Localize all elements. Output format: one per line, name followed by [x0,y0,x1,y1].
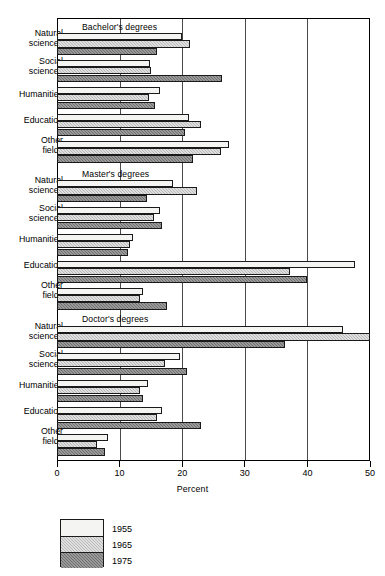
bar-doctorsdegrees-other-fields-1955 [57,434,108,441]
bar-bachelorsdegrees-social-sciences-1975 [57,75,222,82]
cat-label-d-humanities: Humanities [0,381,63,391]
bar-doctorsdegrees-humanities-1975 [57,395,143,402]
x-tick-0 [57,461,58,467]
bar-mastersdegrees-social-sciences-1965 [57,214,154,221]
x-tick-label-10: 10 [115,468,125,478]
bar-doctorsdegrees-other-fields-1975 [57,448,105,455]
gridline-40 [307,19,308,460]
bar-mastersdegrees-other-fields-1965 [57,295,140,302]
cat-label-m-social: Social sciences [0,204,63,223]
bar-mastersdegrees-other-fields-1975 [57,302,167,309]
bar-bachelorsdegrees-natural-sciences-1965 [57,40,190,47]
cat-label-b-other: Other fields [0,136,63,155]
bar-mastersdegrees-humanities-1965 [57,241,130,248]
bar-bachelorsdegrees-social-sciences-1955 [57,60,150,67]
bar-doctorsdegrees-social-sciences-1965 [57,360,165,367]
x-tick-label-40: 40 [302,468,312,478]
x-axis-title: Percent [0,484,385,494]
gridline-20 [182,19,183,460]
cat-label-line2: sciences [0,67,63,77]
bar-bachelorsdegrees-humanities-1975 [57,102,155,109]
bar-bachelorsdegrees-other-fields-1975 [57,155,193,162]
legend-swatch-1975 [61,552,103,568]
bar-mastersdegrees-education-1975 [57,276,307,283]
cat-label-line2: sciences [0,186,63,196]
bar-bachelorsdegrees-education-1965 [57,121,201,128]
cat-label-d-natural: Natural sciences [0,322,63,341]
bar-mastersdegrees-education-1955 [57,261,355,268]
cat-label-line2: sciences [0,360,63,370]
cat-label-line2: fields [0,291,63,301]
cat-label-b-natural: Natural sciences [0,29,63,48]
x-tick-label-0: 0 [54,468,59,478]
panel-title-doctors-text: Doctor's degrees [82,314,148,324]
cat-label-b-education: Education [0,116,63,126]
bar-bachelorsdegrees-natural-sciences-1975 [57,48,157,55]
cat-label-m-natural: Natural sciences [0,176,63,195]
x-tick-label-50: 50 [365,468,375,478]
bar-mastersdegrees-natural-sciences-1955 [57,180,173,187]
bar-mastersdegrees-natural-sciences-1975 [57,195,147,202]
bar-doctorsdegrees-humanities-1965 [57,387,140,394]
cat-label-b-humanities: Humanities [0,90,63,100]
cat-label-m-humanities: Humanities [0,235,63,245]
cat-label-d-education: Education [0,407,63,417]
legend-label-1965: 1965 [112,540,132,550]
bar-doctorsdegrees-education-1955 [57,407,162,414]
cat-label-line2: sciences [0,332,63,342]
x-tick-30 [244,461,245,467]
legend-label-1975: 1975 [112,556,132,566]
x-tick-10 [119,461,120,467]
bar-mastersdegrees-other-fields-1955 [57,288,143,295]
gridline-30 [245,19,246,460]
bar-mastersdegrees-social-sciences-1975 [57,222,162,229]
chart-root: Bachelor's degrees Master's degrees Doct… [0,0,385,576]
bar-doctorsdegrees-education-1975 [57,422,201,429]
bar-mastersdegrees-humanities-1955 [57,234,133,241]
bar-bachelorsdegrees-natural-sciences-1955 [57,33,182,40]
bar-bachelorsdegrees-social-sciences-1965 [57,67,151,74]
cat-label-line2: sciences [0,39,63,49]
bar-mastersdegrees-social-sciences-1955 [57,207,160,214]
x-tick-label-30: 30 [240,468,250,478]
bar-bachelorsdegrees-humanities-1955 [57,87,160,94]
x-tick-40 [307,461,308,467]
bar-bachelorsdegrees-education-1955 [57,114,189,121]
bar-bachelorsdegrees-other-fields-1955 [57,141,229,148]
legend-swatch-1965 [61,536,103,552]
cat-label-line2: fields [0,146,63,156]
bar-doctorsdegrees-natural-sciences-1965 [57,333,370,340]
legend-box [60,519,104,567]
bar-mastersdegrees-education-1965 [57,268,290,275]
legend-swatch-1955 [61,520,103,536]
panel-title-masters-text: Master's degrees [82,169,149,179]
cat-label-d-other: Other fields [0,427,63,446]
cat-label-b-social: Social sciences [0,57,63,76]
legend-label-1955: 1955 [112,524,132,534]
bar-doctorsdegrees-natural-sciences-1975 [57,341,285,348]
cat-label-m-other: Other fields [0,281,63,300]
bar-doctorsdegrees-natural-sciences-1955 [57,326,343,333]
bar-doctorsdegrees-social-sciences-1955 [57,353,180,360]
x-tick-50 [370,461,371,467]
bar-mastersdegrees-humanities-1975 [57,249,128,256]
bar-doctorsdegrees-humanities-1955 [57,380,148,387]
x-tick-label-20: 20 [177,468,187,478]
bar-doctorsdegrees-social-sciences-1975 [57,368,187,375]
cat-label-d-social: Social sciences [0,350,63,369]
cat-label-line2: fields [0,437,63,447]
cat-label-m-education: Education [0,261,63,271]
cat-label-line2: sciences [0,214,63,224]
panel-title-bachelors-text: Bachelor's degrees [82,22,157,32]
panel-title-doctors: Doctor's degrees [57,313,370,327]
bar-bachelorsdegrees-other-fields-1965 [57,148,221,155]
bar-doctorsdegrees-other-fields-1965 [57,441,97,448]
bar-mastersdegrees-natural-sciences-1965 [57,187,197,194]
bar-bachelorsdegrees-education-1975 [57,129,185,136]
bar-doctorsdegrees-education-1965 [57,414,157,421]
x-tick-20 [182,461,183,467]
bar-bachelorsdegrees-humanities-1965 [57,94,149,101]
